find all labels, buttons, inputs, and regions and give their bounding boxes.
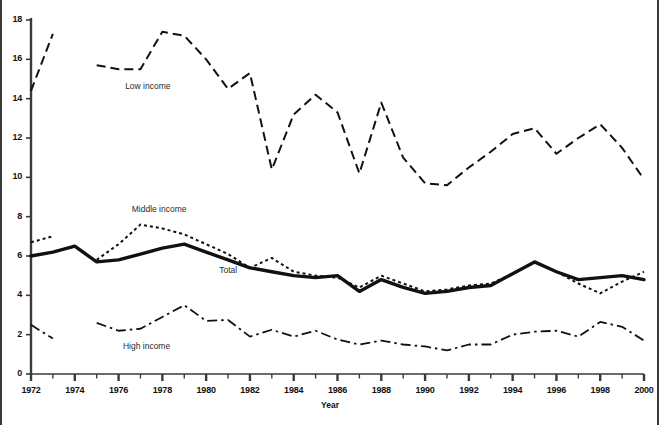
series-line-low-income (31, 34, 53, 91)
y-tick-label: 8 (0, 211, 22, 221)
x-tick-label: 1984 (274, 385, 314, 395)
x-tick-label: 1982 (230, 385, 270, 395)
y-tick-label: 6 (0, 250, 22, 260)
y-tick-label: 4 (0, 289, 22, 299)
x-tick-label: 1980 (186, 385, 226, 395)
x-tick-label: 1986 (318, 385, 358, 395)
y-tick-label: 18 (0, 14, 22, 24)
x-tick-label: 1996 (536, 385, 576, 395)
y-tick-label: 16 (0, 53, 22, 63)
x-tick-label: 1998 (580, 385, 620, 395)
x-axis-title: Year (296, 400, 364, 410)
series-line-low-income (97, 32, 644, 185)
x-tick-label: 1988 (361, 385, 401, 395)
x-tick-label: 1992 (449, 385, 489, 395)
series-line-total (31, 244, 644, 293)
y-tick-label: 0 (0, 368, 22, 378)
y-tick-label: 14 (0, 93, 22, 103)
y-tick-label: 12 (0, 132, 22, 142)
series-label-low-income: Low income (125, 81, 170, 91)
x-tick-label: 1972 (11, 385, 51, 395)
x-tick-label: 1978 (142, 385, 182, 395)
y-tick-label: 2 (0, 329, 22, 339)
y-tick-label: 10 (0, 171, 22, 181)
series-line-high-income (97, 305, 644, 350)
series-label-total: Total (219, 265, 237, 275)
series-line-middle-income (97, 225, 644, 294)
series-line-high-income (31, 325, 53, 339)
series-label-middle-income: Middle income (132, 204, 187, 214)
x-tick-label: 1976 (99, 385, 139, 395)
chart-container: 024681012141618 197219741976197819801982… (0, 0, 659, 425)
series-label-high-income: High income (123, 341, 170, 351)
x-tick-label: 2000 (624, 385, 659, 395)
x-tick-label: 1974 (55, 385, 95, 395)
series-line-middle-income (31, 236, 53, 242)
x-tick-label: 1990 (405, 385, 445, 395)
plot-area (0, 0, 659, 425)
x-tick-label: 1994 (493, 385, 533, 395)
